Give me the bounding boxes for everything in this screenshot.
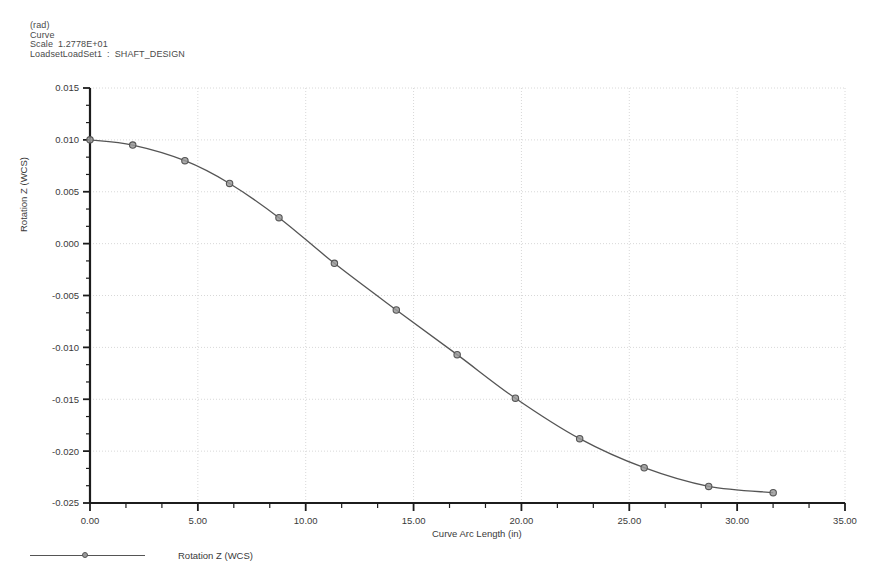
x-axis-title: Curve Arc Length (in) bbox=[432, 528, 522, 539]
chart-legend: Rotation Z (WCS) bbox=[30, 549, 253, 561]
svg-text:-0.025: -0.025 bbox=[52, 497, 79, 508]
legend-swatch bbox=[30, 549, 145, 561]
svg-text:15.00: 15.00 bbox=[402, 515, 426, 526]
svg-text:0.010: 0.010 bbox=[55, 134, 79, 145]
svg-text:-0.010: -0.010 bbox=[52, 342, 79, 353]
legend-label: Rotation Z (WCS) bbox=[145, 550, 253, 561]
svg-text:20.00: 20.00 bbox=[510, 515, 534, 526]
svg-text:0.000: 0.000 bbox=[55, 238, 79, 249]
svg-text:0.005: 0.005 bbox=[55, 186, 79, 197]
y-axis-title: Rotation Z (WCS) bbox=[18, 92, 29, 232]
svg-text:-0.005: -0.005 bbox=[52, 290, 79, 301]
svg-text:0.00: 0.00 bbox=[81, 515, 100, 526]
svg-text:0.015: 0.015 bbox=[55, 82, 79, 93]
chart-canvas: 0.0150.0100.0050.000-0.005-0.010-0.015-0… bbox=[0, 0, 890, 573]
svg-text:25.00: 25.00 bbox=[617, 515, 641, 526]
line-chart: 0.0150.0100.0050.000-0.005-0.010-0.015-0… bbox=[0, 0, 890, 573]
svg-text:35.00: 35.00 bbox=[833, 515, 857, 526]
legend-marker-icon bbox=[82, 552, 88, 558]
svg-text:-0.015: -0.015 bbox=[52, 394, 79, 405]
series-layer bbox=[87, 137, 777, 496]
svg-text:30.00: 30.00 bbox=[725, 515, 749, 526]
tick-labels: 0.0150.0100.0050.000-0.005-0.010-0.015-0… bbox=[52, 82, 857, 526]
axes bbox=[83, 88, 845, 511]
svg-text:-0.020: -0.020 bbox=[52, 446, 79, 457]
svg-text:10.00: 10.00 bbox=[294, 515, 318, 526]
svg-text:5.00: 5.00 bbox=[189, 515, 208, 526]
grid-lines bbox=[90, 88, 845, 503]
